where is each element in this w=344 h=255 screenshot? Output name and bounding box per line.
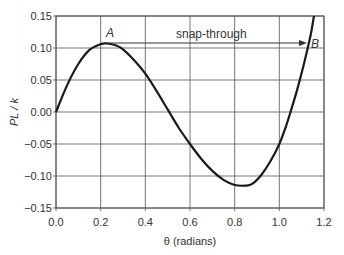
grid-lines (53, 16, 324, 211)
x-axis-ticks: 0.00.20.40.60.81.01.2 (48, 216, 331, 228)
x-axis-label: θ (radians) (164, 235, 217, 247)
y-tick-label: 0.10 (31, 42, 52, 54)
y-axis-ticks: 0.150.100.050.00−0.05−0.10−0.15 (24, 10, 52, 214)
x-tick-label: 0.6 (182, 216, 197, 228)
x-tick-label: 0.2 (93, 216, 108, 228)
point-b-label: B (311, 37, 319, 51)
point-a-label: A (105, 26, 114, 40)
y-tick-label: 0.00 (31, 106, 52, 118)
y-tick-label: −0.05 (24, 138, 52, 150)
x-tick-label: 0.4 (138, 216, 153, 228)
y-tick-label: 0.15 (31, 10, 52, 22)
data-curve (56, 16, 314, 186)
y-tick-label: 0.05 (31, 74, 52, 86)
snap-through-label: snap-through (176, 27, 247, 41)
y-tick-label: −0.10 (24, 170, 52, 182)
x-tick-label: 0.0 (48, 216, 63, 228)
arrow-head-icon (299, 40, 307, 46)
y-tick-label: −0.15 (24, 202, 52, 214)
snap-through-chart: 0.150.100.050.00−0.05−0.10−0.15 0.00.20.… (0, 0, 344, 255)
x-tick-label: 0.8 (227, 216, 242, 228)
x-tick-label: 1.0 (272, 216, 287, 228)
y-axis-label: PL / k (8, 98, 20, 126)
x-tick-label: 1.2 (316, 216, 331, 228)
